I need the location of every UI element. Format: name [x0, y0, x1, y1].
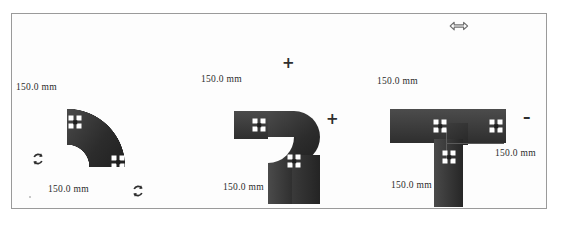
curved-elbow-fitting[interactable]: [67, 109, 139, 177]
curved-elbow-label-top: 150.0 mm: [16, 82, 57, 93]
elbow-label-top: 150.0 mm: [201, 74, 242, 85]
pipe-fitting-palette: 150.0 mm 150.0 mm 150.0 mm 150.0 mm 150.…: [11, 13, 547, 209]
connection-point-marker[interactable]: [69, 116, 82, 129]
connection-point-marker[interactable]: [443, 151, 456, 164]
connection-point-marker[interactable]: [253, 119, 266, 132]
minus-icon[interactable]: –: [523, 110, 531, 125]
tee-edge-highlight-2: [446, 143, 504, 144]
right-angle-elbow-fitting[interactable]: [234, 111, 320, 204]
rotate-icon-left[interactable]: [31, 152, 45, 166]
plus-icon-second[interactable]: +: [326, 112, 339, 127]
curved-elbow-label-bottom: 150.0 mm: [48, 184, 89, 195]
tee-label-top: 150.0 mm: [377, 76, 418, 87]
paper-speck: [29, 196, 31, 198]
connection-point-marker[interactable]: [288, 155, 301, 168]
plus-icon-first[interactable]: +: [282, 56, 295, 71]
screenshot-root: 150.0 mm 150.0 mm 150.0 mm 150.0 mm 150.…: [0, 0, 563, 227]
tee-junction-fitting[interactable]: [390, 109, 506, 207]
rotate-icon-right[interactable]: [131, 184, 145, 198]
connection-point-marker[interactable]: [434, 120, 447, 133]
left-right-arrow-icon[interactable]: [449, 20, 469, 32]
connection-point-marker[interactable]: [490, 120, 503, 133]
tee-branch: [434, 139, 463, 207]
connection-point-marker[interactable]: [112, 156, 125, 169]
